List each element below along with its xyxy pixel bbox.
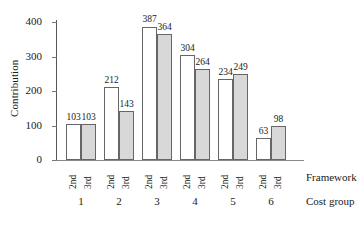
x-sublabel-6-3rd: 3rd [272,163,285,189]
bar-6-3rd [271,126,286,160]
bar-value-label-4-2nd: 304 [173,44,203,54]
bar-value-label-2-3rd: 143 [112,100,142,110]
y-tick-label-0: 0 [0,154,50,165]
x-sublabel-1-2nd: 2nd [67,163,80,189]
x-group-label-3: 3 [140,196,174,207]
x-group-label-2: 2 [102,196,136,207]
bar-1-3rd [81,124,96,160]
x-sublabel-2-3rd: 3rd [120,163,133,189]
x-group-label-6: 6 [254,196,288,207]
bar-6-2nd [256,138,271,160]
bar-1-2nd [66,124,81,160]
y-tick-label-200: 200 [0,85,50,96]
bar-3-3rd [157,34,172,160]
bar-value-label-2-2nd: 212 [97,76,127,86]
x-sublabel-3-3rd: 3rd [158,163,171,189]
bar-chart: Contribution 0100200300400 1031032121433… [0,0,358,227]
bar-value-label-6-3rd: 98 [264,115,294,125]
y-tick-label-300: 300 [0,51,50,62]
x-group-label-5: 5 [216,196,250,207]
x-sublabel-3-2nd: 2nd [143,163,156,189]
bar-value-label-5-3rd: 249 [226,63,256,73]
bar-3-2nd [142,27,157,161]
x-group-label-4: 4 [178,196,212,207]
bar-4-2nd [180,55,195,160]
y-tick-0 [52,160,57,161]
bar-4-3rd [195,69,210,160]
x-sublabel-5-2nd: 2nd [219,163,232,189]
x-axis-line [56,160,304,161]
framework-row-label: Framework [306,172,357,183]
bar-value-label-1-3rd: 103 [74,113,104,123]
y-tick-300 [52,57,57,58]
x-sublabel-4-2nd: 2nd [181,163,194,189]
x-group-label-1: 1 [64,196,98,207]
bar-2-2nd [104,87,119,160]
x-sublabel-1-3rd: 3rd [82,163,95,189]
x-sublabel-6-2nd: 2nd [257,163,270,189]
bar-5-3rd [233,74,248,160]
y-tick-100 [52,126,57,127]
bar-2-3rd [119,111,134,160]
x-sublabel-5-3rd: 3rd [234,163,247,189]
y-tick-400 [52,22,57,23]
x-sublabel-4-3rd: 3rd [196,163,209,189]
x-sublabel-2-2nd: 2nd [105,163,118,189]
costgroup-row-label: Cost group [306,196,355,207]
y-tick-label-400: 400 [0,16,50,27]
y-tick-200 [52,91,57,92]
y-tick-label-100: 100 [0,120,50,131]
bar-value-label-4-3rd: 264 [188,58,218,68]
bar-value-label-3-3rd: 364 [150,23,180,33]
bar-5-2nd [218,79,233,160]
